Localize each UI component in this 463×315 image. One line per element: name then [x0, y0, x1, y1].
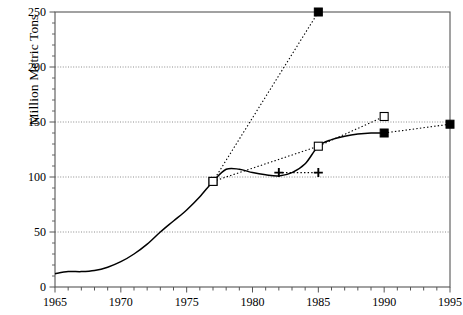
- x-tick-label: 1980: [241, 295, 265, 309]
- x-tick-label: 1975: [175, 295, 199, 309]
- plot-border: [55, 12, 450, 287]
- chart-container: 1965197019751980198519901995 05010015020…: [0, 0, 463, 315]
- marker-filled-square: [446, 120, 454, 128]
- x-tick-label: 1965: [43, 295, 67, 309]
- series-line-high-projection-filled-square: [213, 12, 318, 181]
- series-line-mid-projection-open-square: [213, 117, 384, 182]
- y-axis-label-text: Million Metric Tons: [26, 15, 41, 126]
- marker-open-square: [314, 142, 322, 150]
- x-tick-label: 1985: [306, 295, 330, 309]
- y-tick-label: 50: [34, 225, 46, 239]
- x-tick-label: 1990: [372, 295, 396, 309]
- marker-filled-square: [380, 129, 388, 137]
- x-axis-tick-labels: 1965197019751980198519901995: [43, 295, 462, 309]
- marker-open-square: [209, 177, 217, 185]
- y-axis-label: Million Metric Tons: [24, 0, 44, 150]
- x-tick-label: 1995: [438, 295, 462, 309]
- y-tick-label: 100: [28, 170, 46, 184]
- y-axis-ticks: [50, 12, 56, 287]
- marker-filled-square: [314, 8, 322, 16]
- y-tick-label: 0: [40, 280, 46, 294]
- chart-plot-area: 1965197019751980198519901995 05010015020…: [0, 0, 463, 315]
- data-series-group: [55, 12, 450, 274]
- marker-open-square: [380, 113, 388, 121]
- series-line-historical-actual: [55, 133, 384, 274]
- x-tick-label: 1970: [109, 295, 133, 309]
- marker-plus: [314, 168, 323, 177]
- gridlines-group: [55, 67, 450, 232]
- series-line-late-projection-filled-square: [384, 124, 450, 133]
- data-markers-group: [209, 8, 454, 185]
- x-axis-ticks: [55, 287, 450, 293]
- plot-frame: [55, 12, 450, 287]
